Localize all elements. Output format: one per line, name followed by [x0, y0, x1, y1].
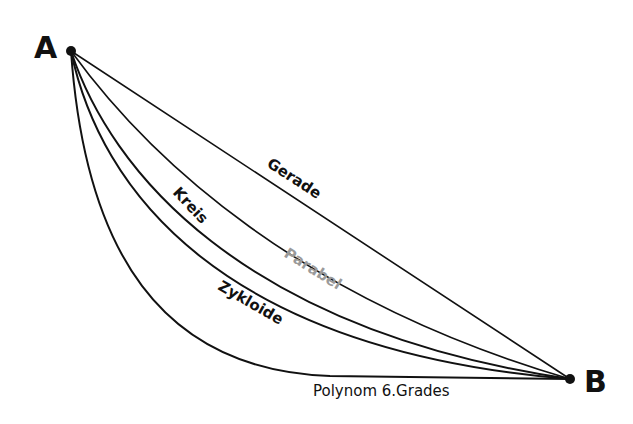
brachistochrone-diagram: A B Gerade Kreis Parabel Zykloide Polyno… [0, 0, 633, 424]
label-parabel: Parabel [281, 244, 345, 293]
point-b-label: B [584, 364, 607, 399]
curve-gerade [71, 51, 570, 379]
label-polynom: Polynom 6.Grades [313, 382, 450, 400]
label-gerade: Gerade [264, 154, 325, 202]
point-b-dot [565, 374, 575, 384]
point-a-label: A [34, 30, 58, 65]
label-kreis: Kreis [169, 183, 212, 227]
point-a-dot [66, 46, 76, 56]
